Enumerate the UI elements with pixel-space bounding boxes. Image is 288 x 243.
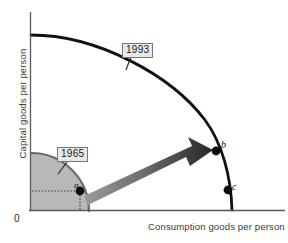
y-axis-label: Capital goods per person — [17, 34, 28, 174]
point-label-a: a — [74, 180, 79, 190]
ppf-figure: Capital goods per person Consumption goo… — [0, 0, 288, 243]
origin-label: 0 — [14, 213, 20, 224]
x-axis-label: Consumption goods per person — [148, 221, 285, 232]
callout-label-1965: 1965 — [57, 147, 88, 162]
data-point-b — [212, 147, 221, 156]
growth-arrow — [84, 137, 213, 205]
point-label-b: b — [221, 139, 226, 150]
point-label-c: c — [232, 181, 236, 192]
ppf-chart-svg — [0, 0, 288, 243]
callout-label-1993: 1993 — [122, 43, 153, 58]
